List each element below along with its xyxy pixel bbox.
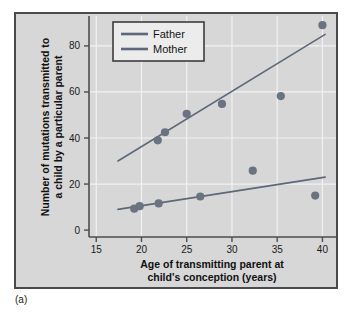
x-axis-ticks: 152025303540 (91, 237, 329, 255)
x-tick-label: 40 (317, 244, 329, 255)
y-tick-label: 60 (69, 86, 81, 97)
datapoint-father (318, 21, 326, 29)
scatter-chart: 020406080 152025303540 Number of mutatio… (0, 0, 352, 316)
x-tick-label: 25 (181, 244, 193, 255)
y-tick-label: 20 (69, 179, 81, 190)
y-axis-ticks: 020406080 (69, 40, 89, 235)
chart-legend[interactable]: Father Mother (113, 22, 204, 61)
datapoint-mother (249, 167, 257, 175)
y-tick-label: 80 (69, 40, 81, 51)
y-tick-label: 40 (69, 133, 81, 144)
datapoint-father (154, 136, 162, 144)
y-tick-label: 0 (74, 225, 80, 236)
y-axis-title-line1: Number of mutations transmitted to (39, 38, 51, 217)
datapoint-father (218, 100, 226, 108)
datapoint-mother (155, 199, 163, 207)
datapoint-mother (311, 191, 319, 199)
x-tick-label: 15 (91, 244, 103, 255)
datapoint-mother (136, 202, 144, 210)
x-tick-label: 35 (272, 244, 284, 255)
datapoint-father (161, 128, 169, 136)
x-axis-title-line1: Age of transmitting parent at (140, 258, 284, 270)
x-tick-label: 20 (136, 244, 148, 255)
x-axis-title-line2: child's conception (years) (147, 271, 276, 283)
x-axis-title: Age of transmitting parent at child's co… (140, 258, 284, 283)
legend-label-father: Father (153, 28, 185, 40)
legend-label-mother: Mother (153, 43, 188, 55)
y-axis-title-line2: a child by a particular parent (52, 55, 64, 198)
datapoint-father (183, 110, 191, 118)
y-axis-title: Number of mutations transmitted to a chi… (39, 38, 64, 217)
datapoint-mother (196, 192, 204, 200)
x-tick-label: 30 (226, 244, 238, 255)
trendline-mother (118, 177, 325, 209)
figure-caption: (a) (15, 294, 27, 305)
figure-panel-a: 020406080 152025303540 Number of mutatio… (0, 0, 352, 316)
datapoint-father (277, 92, 285, 100)
